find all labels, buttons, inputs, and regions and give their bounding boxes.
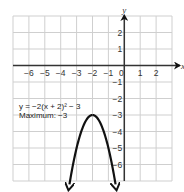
x-tick-label: −2 — [88, 68, 98, 78]
x-tick-label: −3 — [72, 68, 82, 78]
x-tick-label: −5 — [40, 68, 50, 78]
x-tick-label: 0 — [119, 68, 124, 78]
parabola-left-branch — [69, 115, 92, 184]
y-tick-label: 1 — [118, 44, 123, 54]
x-tick-label: −4 — [56, 68, 66, 78]
equation-label: y = −2(x + 2)² − 3 — [19, 102, 81, 111]
x-axis-label: x — [180, 61, 184, 71]
maximum-label: Maximum: −3 — [19, 111, 68, 120]
y-tick-label: 2 — [118, 28, 123, 38]
x-tick-label: 2 — [154, 68, 159, 78]
x-tick-label: −1 — [104, 68, 114, 78]
x-tick-label: 1 — [138, 68, 143, 78]
x-tick-label: −6 — [24, 68, 34, 78]
parabola-chart: −6−5−4−3−2−101221−1−2−3−4−5−6 y = −2(x +… — [0, 0, 184, 192]
y-tick-label: −4 — [113, 127, 123, 137]
grid — [13, 16, 172, 181]
y-tick-label: −1 — [113, 77, 123, 87]
annotations: y = −2(x + 2)² − 3 Maximum: −3 — [19, 102, 81, 120]
y-tick-label: −6 — [113, 160, 123, 170]
y-tick-label: −3 — [113, 110, 123, 120]
y-axis-label: y — [121, 5, 126, 15]
y-tick-label: −2 — [113, 94, 123, 104]
y-tick-label: −5 — [113, 143, 123, 153]
